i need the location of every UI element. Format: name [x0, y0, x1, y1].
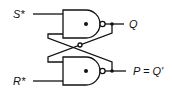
sr-latch-diagram: S* R* Q P = Q'	[0, 0, 173, 96]
nand-gate-top	[63, 10, 100, 38]
inversion-bubble-top	[100, 21, 105, 26]
gate-dot-top	[84, 22, 88, 26]
nand-gate-bottom	[63, 57, 100, 85]
gate-dot-bottom	[84, 69, 88, 73]
inversion-bubble-bottom	[100, 68, 105, 73]
junction-dot-p	[110, 69, 114, 73]
label-q: Q	[129, 18, 138, 30]
label-p: P = Q'	[133, 65, 164, 77]
label-s: S*	[13, 8, 25, 20]
wire-crossover	[78, 43, 82, 47]
junction-dot-q	[110, 22, 114, 26]
label-r: R*	[13, 75, 26, 87]
